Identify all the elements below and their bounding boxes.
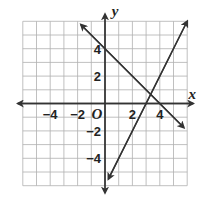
y-tick-label: 4: [94, 42, 102, 57]
coordinate-plane: −4−22442−2−4Oxy: [0, 0, 200, 204]
y-axis-label: y: [110, 3, 119, 19]
x-tick-label: −4: [43, 107, 59, 122]
x-axis-label: x: [187, 86, 196, 102]
x-tick-label: 4: [156, 107, 164, 122]
y-tick-label: −2: [86, 124, 101, 139]
x-tick-label: 2: [129, 107, 136, 122]
line-2-reverse-arrow: [108, 21, 187, 179]
y-tick-label: 2: [94, 69, 101, 84]
y-tick-label: −4: [86, 151, 102, 166]
origin-label: O: [92, 106, 103, 122]
axes: [18, 14, 193, 192]
x-tick-label: −2: [70, 107, 85, 122]
